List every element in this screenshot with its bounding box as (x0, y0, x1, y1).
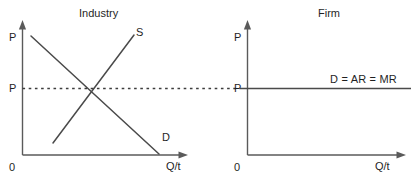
industry-x-axis-label: Q/t (166, 161, 181, 172)
industry-y-axis-arrow (19, 20, 26, 30)
economics-diagram: Industry P P 0 Q/t S D Firm P P 0 Q/t D … (0, 0, 417, 185)
firm-x-axis-label: Q/t (375, 161, 390, 172)
firm-y-axis-arrow (244, 20, 251, 30)
industry-panel (19, 20, 240, 159)
demand-curve (31, 36, 159, 154)
industry-price-label: P (9, 83, 16, 94)
firm-x-axis-arrow (397, 151, 407, 158)
firm-y-axis-label: P (234, 32, 241, 43)
firm-title: Firm (318, 8, 340, 19)
industry-x-axis (23, 151, 189, 158)
firm-origin-label: 0 (234, 162, 240, 173)
firm-panel (240, 20, 411, 159)
supply-curve-label: S (136, 27, 143, 38)
industry-origin-label: 0 (9, 162, 15, 173)
firm-demand-ar-mr-label: D = AR = MR (330, 74, 397, 85)
demand-curve-label: D (162, 132, 170, 143)
diagram-canvas (0, 0, 417, 185)
firm-y-axis (244, 20, 251, 155)
industry-y-axis (19, 20, 26, 155)
industry-x-axis-arrow (179, 151, 189, 158)
industry-title: Industry (79, 8, 118, 19)
industry-y-axis-label: P (9, 32, 16, 43)
firm-price-label: P (234, 83, 241, 94)
firm-x-axis (248, 151, 407, 158)
